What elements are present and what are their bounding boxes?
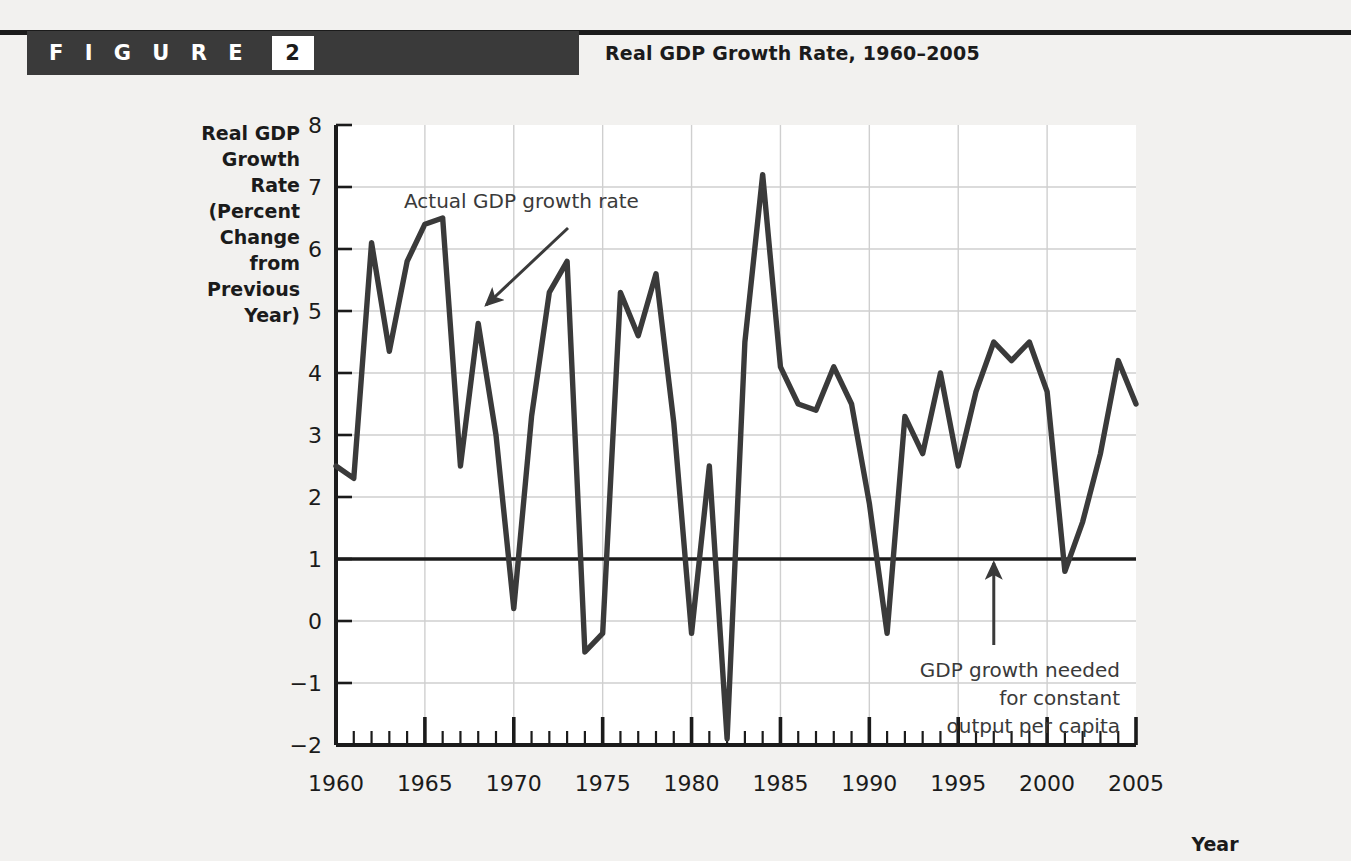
x-axis-tick-label: 2000 [1019,771,1075,796]
x-axis-tick-label: 1985 [752,771,808,796]
figure-title: Real GDP Growth Rate, 1960–2005 [605,42,980,64]
y-axis-tick-label: 0 [308,609,322,634]
y-axis-title-line: from [250,252,301,274]
y-axis-tick-label: 5 [308,299,322,324]
y-axis-title-line: Previous [207,278,300,300]
x-axis-tick-label: 1995 [930,771,986,796]
annotation-gdp-growth-needed-label-line: for constant [999,686,1120,710]
y-axis-tick-label: 6 [308,237,322,262]
y-axis-title-line: Change [220,226,300,248]
annotation-gdp-growth-needed-label-line: output per capita [946,714,1120,738]
x-axis-title: Year [1190,833,1239,855]
y-axis-title-line: Year) [243,304,300,326]
gdp-growth-line-chart: −2−1012345678 19601965197019751980198519… [0,90,1351,861]
x-axis-tick-label: 1990 [841,771,897,796]
x-axis-tick-label: 1970 [486,771,542,796]
y-axis-title-line: Growth [222,148,300,170]
x-axis-tick-labels: 1960196519701975198019851990199520002005 [308,771,1164,796]
y-axis-title-line: (Percent [208,200,300,222]
y-axis-title: Real GDPGrowthRate(PercentChangefromPrev… [201,122,300,326]
figure-number: 2 [272,36,314,70]
chart-container: −2−1012345678 19601965197019751980198519… [0,90,1351,861]
x-axis-tick-label: 1980 [664,771,720,796]
y-axis-title-line: Real GDP [201,122,300,144]
y-axis-title-line: Rate [251,174,300,196]
y-axis-tick-label: 3 [308,423,322,448]
x-axis-tick-label: 1975 [575,771,631,796]
y-axis-tick-label: 8 [308,113,322,138]
figure-banner: F I G U R E 2 [27,31,579,75]
x-axis-tick-label: 2005 [1108,771,1164,796]
y-axis-tick-label: −2 [290,733,322,758]
figure-page: F I G U R E 2 Real GDP Growth Rate, 1960… [0,0,1351,861]
y-axis-tick-label: 7 [308,175,322,200]
y-axis-tick-label: −1 [290,671,322,696]
y-axis-tick-label: 2 [308,485,322,510]
y-axis-tick-label: 1 [308,547,322,572]
x-axis-tick-label: 1965 [397,771,453,796]
annotation-gdp-growth-needed-label-line: GDP growth needed [920,658,1120,682]
annotation-actual-gdp-growth-rate-label: Actual GDP growth rate [404,189,639,213]
figure-label: F I G U R E [49,41,250,65]
x-axis-title: Year [1190,833,1239,855]
x-axis-tick-label: 1960 [308,771,364,796]
y-axis-tick-label: 4 [308,361,322,386]
